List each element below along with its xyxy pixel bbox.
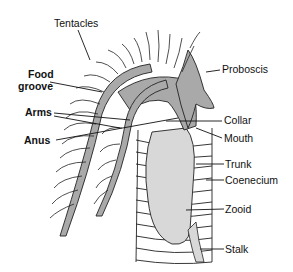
label-anus: Anus [24, 135, 50, 146]
label-arms: Arms [25, 107, 52, 118]
label-food-groove-line1: Food [28, 69, 54, 80]
label-trunk: Trunk [225, 159, 251, 170]
label-food-groove-line2: groove [18, 81, 53, 92]
label-zooid: Zooid [225, 204, 251, 215]
label-coenecium: Coenecium [225, 175, 278, 186]
label-proboscis: Proboscis [222, 64, 268, 75]
label-collar: Collar [224, 115, 251, 126]
label-mouth: Mouth [224, 133, 253, 144]
label-tentacles: Tentacles [54, 18, 98, 29]
stalk [188, 222, 204, 262]
diagram-canvas: Tentacles Food groove Arms Anus Probosci… [0, 0, 293, 272]
label-stalk: Stalk [225, 244, 248, 255]
